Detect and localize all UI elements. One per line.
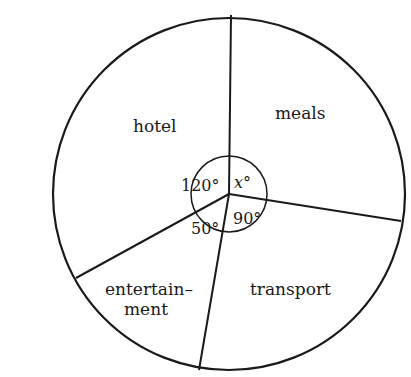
pie-chart: hotel meals transport entertain– ment 12… [0, 0, 411, 377]
label-entertainment-line2: ment [124, 299, 168, 319]
label-entertainment-line1: entertain– [105, 279, 193, 299]
angle-degree-symbol: ° [243, 173, 251, 192]
label-transport: transport [250, 279, 331, 299]
angle-label-hotel: 120° [181, 176, 220, 195]
label-meals: meals [275, 103, 325, 123]
radius-hotel-meals [229, 15, 231, 194]
angle-label-transport: 90° [233, 209, 261, 228]
label-hotel: hotel [133, 116, 177, 136]
angle-variable-x: x [234, 173, 243, 192]
angle-label-entertainment: 50° [191, 219, 219, 238]
angle-label-meals: x° [234, 173, 251, 192]
